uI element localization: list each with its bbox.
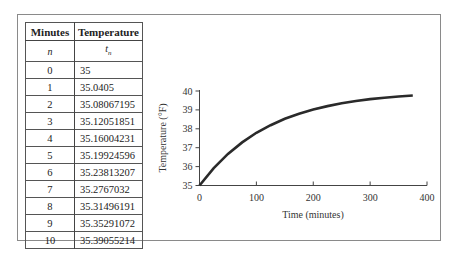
x-ticks: 0100200300400	[197, 182, 435, 203]
table-row: 135.0405	[26, 79, 143, 96]
temperature-chart: 353637383940 0100200300400 Time (minutes…	[150, 80, 440, 230]
table-row: 235.08067195	[26, 96, 143, 113]
temperature-table: Minutes Temperature n tn 035 135.0405 23…	[25, 22, 143, 249]
y-tick-label: 39	[183, 104, 193, 115]
table-row: 935.35291072	[26, 215, 143, 232]
x-tick-label: 0	[197, 192, 202, 203]
y-ticks: 353637383940	[183, 86, 200, 192]
column-header-temperature: Temperature	[74, 23, 142, 41]
table-row: 435.16004231	[26, 130, 143, 147]
y-tick-label: 36	[183, 161, 193, 172]
subheader-tn: tn	[74, 41, 142, 62]
table-row: 535.19924596	[26, 147, 143, 164]
table-row: 635.23813207	[26, 164, 143, 181]
y-tick-label: 38	[183, 123, 193, 134]
temperature-curve	[200, 96, 413, 186]
table-row: 835.31496191	[26, 198, 143, 215]
y-tick-label: 35	[183, 180, 193, 191]
table-row: 1035.39055214	[26, 232, 143, 249]
x-axis-label: Time (minutes)	[282, 209, 344, 221]
table-row: 035	[26, 62, 143, 79]
table-header-row: Minutes Temperature	[26, 23, 143, 41]
x-tick-label: 200	[306, 192, 321, 203]
subheader-n: n	[26, 41, 75, 62]
column-header-minutes: Minutes	[26, 23, 75, 41]
y-tick-label: 40	[183, 86, 193, 97]
y-tick-label: 37	[183, 142, 193, 153]
table-row: 335.12051851	[26, 113, 143, 130]
x-tick-label: 100	[249, 192, 264, 203]
table-subheader-row: n tn	[26, 41, 143, 62]
x-tick-label: 300	[363, 192, 378, 203]
table-row: 735.2767032	[26, 181, 143, 198]
x-tick-label: 400	[420, 192, 435, 203]
y-axis-label: Temperature (°F)	[157, 103, 169, 172]
